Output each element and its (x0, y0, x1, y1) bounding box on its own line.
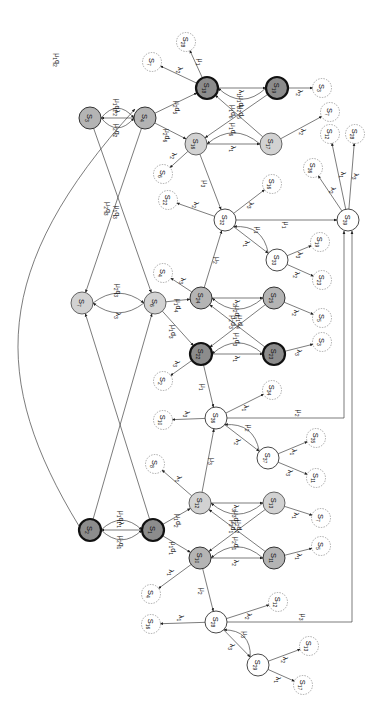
edge-rate-label: λ1 (228, 146, 238, 153)
edge-rate-label: λ1 (294, 553, 304, 560)
transition-edge: λ3 (170, 360, 192, 375)
state-node-s3: S3 (79, 107, 101, 129)
transition-edge: μ2d6 (155, 123, 186, 142)
edge-rate-label: λ3 (295, 252, 305, 259)
state-node-s22: S22 (159, 191, 178, 210)
state-node-s28: S28 (177, 33, 196, 52)
transition-edge: λ2 (226, 605, 269, 620)
edge-rate-label: μ1 (281, 222, 291, 229)
edge-rate-label: μ1 (253, 227, 263, 234)
edge-rate-label: μ3 (298, 614, 308, 621)
edge-rate-label: μ2d1 (231, 537, 241, 551)
edge-rate-label: λ3 (227, 644, 237, 651)
transition-edge: λ2 (284, 302, 314, 316)
edge-rate-label: λ1 (291, 512, 301, 519)
edge-rate-label: μ3 (200, 180, 210, 187)
edge-rate-label: λ1 (273, 677, 283, 684)
edge-rate-label: λ1 (174, 476, 184, 483)
transition-edge: λ3 (285, 344, 314, 356)
state-node-s3: S3 (313, 333, 332, 352)
state-node-s39: S39 (337, 209, 359, 231)
edge-rate-label: λ3 (178, 278, 188, 285)
edge-rate-label: μ1q2 (52, 53, 62, 67)
transition-edge: λ1 (285, 548, 313, 560)
state-node-s23: S23 (263, 343, 285, 365)
state-node-s36: S36 (304, 159, 323, 178)
transition-edge: μ1d3 (212, 333, 263, 354)
state-node-s32: S32 (214, 209, 236, 231)
edge-rate-label: λ1 (232, 356, 242, 363)
transition-edge: μ1q3 (94, 128, 152, 292)
transition-edge: λ2 (268, 649, 300, 663)
edge-rate-label: λ1 (338, 172, 348, 179)
transition-edge (93, 314, 152, 520)
transition-edge: λ3 (349, 143, 360, 209)
transition-edge: μ1 (198, 365, 214, 408)
transition-edge: λ2 (211, 558, 263, 566)
state-node-s12: S12 (269, 593, 288, 612)
edge-rate-label: λ2 (298, 129, 308, 136)
state-node-s17: S17 (260, 133, 282, 155)
edge-rate-label: λ2 (295, 90, 305, 97)
edge-rate-label: μ2 (244, 425, 254, 432)
state-node-s8: S8 (146, 455, 165, 474)
transition-edge: μ2q2 (101, 118, 134, 138)
state-node-s5: S5 (312, 537, 331, 556)
state-node-s12: S12 (321, 125, 340, 144)
transition-edge: λ2 (176, 202, 214, 217)
edge-rate-label: λ2 (291, 310, 301, 317)
edge-rate-label: λ1 (166, 569, 176, 576)
transition-edge: μ1 (236, 220, 337, 229)
state-node-s35: S35 (307, 429, 326, 448)
state-node-s6: S6 (154, 165, 173, 184)
edge-rate-label: μ2q1 (116, 536, 126, 550)
state-node-s13: S13 (263, 492, 285, 514)
state-node-s10: S10 (154, 411, 173, 430)
transition-edge: μ2 (197, 569, 213, 612)
transition-edge: λ1 (284, 506, 312, 519)
transition-edge: λ3 (278, 462, 308, 476)
edge-rate-label: μ1d3 (232, 333, 242, 347)
state-node-s10: S10 (189, 547, 211, 569)
state-node-s36: S36 (205, 407, 227, 429)
edge-rate-label: μ3 (240, 631, 250, 638)
edge-rate-label: λ2 (328, 187, 338, 194)
transition-edge: λ2 (225, 425, 260, 452)
edge-rate-label: λ1 (176, 615, 186, 622)
transition-edge (85, 313, 149, 519)
state-node-s3: S3 (313, 79, 332, 98)
transition-edge: μ3 (200, 154, 221, 209)
state-node-s25: S25 (263, 287, 285, 309)
state-node-s17: S17 (294, 676, 313, 695)
edge-rate-label: λ3 (285, 470, 295, 477)
state-node-s24: S24 (190, 287, 212, 309)
state-node-s11: S11 (307, 469, 326, 488)
edge-rate-label: λ2 (169, 153, 179, 160)
edge-rate-label: λ2 (292, 272, 302, 279)
transition-edge: λ1 (207, 144, 260, 152)
edge-rate-label: μ2 (197, 588, 207, 595)
state-node-s28: S28 (346, 125, 365, 144)
transition-edge: μ2q3 (86, 128, 142, 292)
state-node-s16: S16 (142, 615, 161, 634)
transition-edge: λ3 (171, 278, 192, 292)
transition-edge: λ1 (212, 354, 263, 362)
state-node-s2: S2 (79, 519, 101, 541)
transition-edge: λ2 (281, 116, 322, 138)
state-node-s16: S16 (185, 133, 207, 155)
edge-rate-label: λ2 (243, 613, 253, 620)
state-node-s19: S19 (266, 77, 288, 99)
transition-edge: μ1d2 (163, 508, 191, 527)
transition-edge: λ2 (318, 175, 342, 210)
edge-rate-label: λ2 (231, 560, 241, 567)
transition-edge: μ3 (227, 231, 352, 622)
edge-rate-label: μ1 (195, 59, 205, 66)
edge-rate-label: λ3 (172, 361, 182, 368)
state-node-s4: S4 (142, 585, 161, 604)
state-node-s37: S37 (257, 447, 279, 469)
transition-edge: μ2d1 (211, 537, 263, 558)
transition-edge: μ1d3 (162, 311, 193, 346)
state-node-s13: S13 (300, 637, 319, 656)
edge-rate-label: μ1d3 (168, 325, 178, 339)
edge-rate-label: λ3 (294, 349, 304, 356)
